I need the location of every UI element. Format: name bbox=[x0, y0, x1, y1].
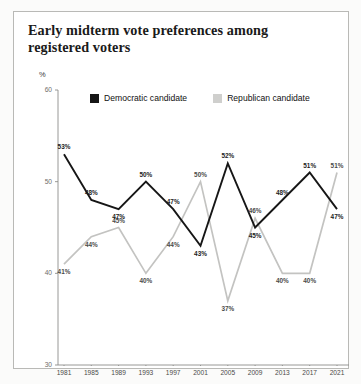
screenshot-page: Early midterm vote preferences among reg… bbox=[0, 0, 361, 384]
point-label-democratic-2013: 48% bbox=[276, 189, 289, 196]
chart-figure-card: Early midterm vote preferences among reg… bbox=[13, 11, 349, 369]
y-tick-label-40: 40 bbox=[38, 269, 52, 276]
chart-footnote bbox=[14, 374, 344, 382]
point-label-democratic-1997: 47% bbox=[167, 198, 180, 205]
point-label-republican-2009: 46% bbox=[249, 207, 262, 214]
chart-title: Early midterm vote preferences among reg… bbox=[28, 22, 333, 56]
series-line-republican bbox=[64, 173, 337, 301]
point-label-democratic-1981: 53% bbox=[58, 143, 71, 150]
chart-axes bbox=[58, 90, 349, 365]
point-label-democratic-2005: 52% bbox=[221, 152, 234, 159]
point-label-democratic-2017: 51% bbox=[303, 162, 316, 169]
point-label-republican-2001: 50% bbox=[194, 171, 207, 178]
point-label-republican-2005: 37% bbox=[221, 305, 234, 312]
y-tick-label-60: 60 bbox=[38, 86, 52, 93]
point-label-democratic-2021: 47% bbox=[331, 213, 344, 220]
y-tick-label-30: 30 bbox=[38, 361, 52, 368]
point-label-republican-1993: 40% bbox=[139, 277, 152, 284]
point-label-republican-1997: 44% bbox=[167, 241, 180, 248]
y-tick-label-50: 50 bbox=[38, 178, 52, 185]
point-label-democratic-1985: 48% bbox=[85, 189, 98, 196]
y-axis-unit-label: % bbox=[39, 70, 46, 79]
point-label-democratic-1993: 50% bbox=[139, 171, 152, 178]
point-label-democratic-2009: 45% bbox=[249, 232, 262, 239]
point-label-democratic-2001: 43% bbox=[194, 250, 207, 257]
point-label-republican-2017: 40% bbox=[303, 277, 316, 284]
point-label-republican-2013: 40% bbox=[276, 277, 289, 284]
point-label-republican-2021: 51% bbox=[331, 162, 344, 169]
point-label-republican-1981: 41% bbox=[58, 268, 71, 275]
plot-svg bbox=[50, 84, 350, 366]
plot-area: 30405060 41%44%45%40%44%50%37%46%40%40%5… bbox=[50, 84, 350, 366]
point-label-republican-1985: 44% bbox=[85, 241, 98, 248]
y-axis-ticks bbox=[55, 90, 58, 365]
point-label-democratic-1989: 47% bbox=[112, 213, 125, 220]
